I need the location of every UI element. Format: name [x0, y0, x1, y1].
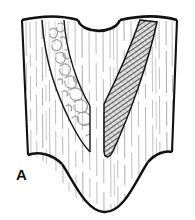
figure-illustration: A	[0, 0, 195, 220]
panel-label: A	[16, 166, 27, 183]
figure-panel: A	[0, 0, 195, 220]
